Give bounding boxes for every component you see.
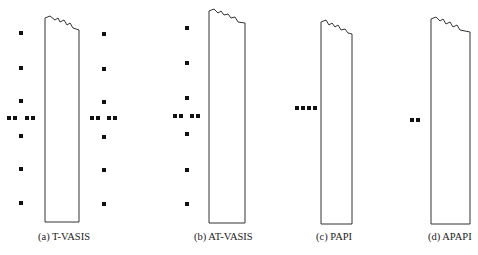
panel-b-wing — [173, 114, 200, 118]
caption-b: (b) AT-VASIS — [194, 231, 253, 242]
panel-a-right-wing — [90, 116, 117, 120]
caption-d: (d) APAPI — [428, 231, 472, 242]
approach-lighting-diagram — [0, 0, 478, 255]
runway-a — [45, 16, 79, 222]
panel-a-left-wing — [7, 116, 35, 120]
caption-a: (a) T-VASIS — [38, 231, 90, 242]
runway-c — [321, 20, 352, 224]
runway-d — [431, 17, 470, 224]
panel-a-left-column — [19, 31, 23, 205]
runway-b — [209, 9, 245, 223]
caption-c: (c) PAPI — [316, 231, 352, 242]
panel-d-wing — [410, 118, 420, 122]
panel-a-right-column — [102, 32, 106, 206]
panel-b-column — [185, 26, 189, 206]
panel-c-wing — [295, 106, 317, 110]
lights — [7, 26, 420, 206]
